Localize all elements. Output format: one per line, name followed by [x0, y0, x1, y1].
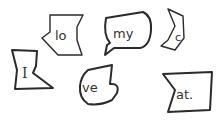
piece-text-at: at. [176, 87, 193, 102]
piece-text-lo: lo [55, 28, 67, 43]
puzzle-piece-I: I [12, 50, 53, 89]
puzzle-piece-lo: lo [42, 15, 83, 55]
piece-text-c: c [175, 31, 181, 44]
puzzle-illustration: lo my c I ve at. [0, 0, 222, 121]
piece-text-my: my [113, 26, 134, 41]
puzzle-piece-c: c [161, 9, 184, 50]
piece-text-I: I [22, 65, 28, 81]
piece-text-ve: ve [82, 80, 98, 95]
puzzle-piece-ve: ve [80, 65, 118, 105]
puzzle-piece-at: at. [163, 72, 212, 112]
puzzle-piece-my: my [105, 12, 151, 55]
